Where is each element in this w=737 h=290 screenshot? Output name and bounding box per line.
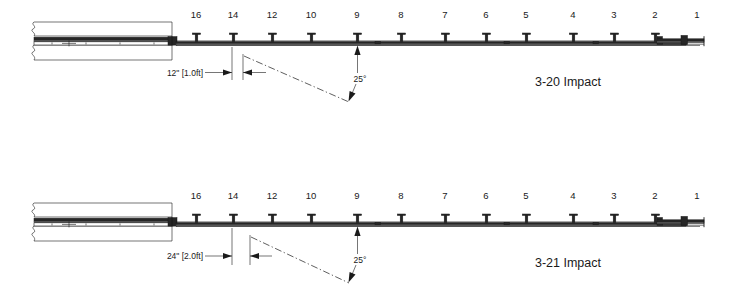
angle-arrow-up — [354, 227, 360, 237]
post-label-8: 8 — [398, 9, 403, 20]
post-label-16: 16 — [191, 190, 202, 201]
post-label-5: 5 — [523, 190, 528, 201]
post-number-labels-top: 16 14 12 10 9 8 7 6 5 4 3 2 1 — [191, 9, 700, 20]
concrete-barrier-bottom — [32, 203, 177, 241]
post-number-labels-bottom: 16 14 12 10 9 8 7 6 5 4 3 2 1 — [191, 190, 700, 201]
angle-arrow-down — [349, 272, 356, 283]
diagram-3-21: 16 14 12 10 9 8 7 6 5 4 3 2 1 — [0, 145, 737, 290]
drawing-sheet: 16 14 12 10 9 8 7 6 5 4 3 2 1 — [0, 0, 737, 290]
dim-arrow-left — [223, 70, 232, 76]
post-label-3: 3 — [611, 190, 616, 201]
post-label-6: 6 — [483, 9, 488, 20]
angle-arrow-up — [354, 46, 360, 56]
impact-angle-text: 25° — [354, 255, 367, 265]
offset-dimension-text: 24" [2.0ft] — [167, 251, 203, 261]
post-label-2: 2 — [652, 9, 657, 20]
post-label-9: 9 — [354, 9, 359, 20]
post-label-12: 12 — [267, 9, 278, 20]
concrete-barrier-top — [32, 22, 177, 60]
offset-dimension-top: 12" [1.0ft] — [167, 47, 266, 80]
diagram-title-3-21: 3-21 Impact — [535, 256, 602, 270]
post-label-2: 2 — [652, 190, 657, 201]
post-label-7: 7 — [442, 9, 447, 20]
post-label-1: 1 — [694, 190, 699, 201]
diagram-title-3-20: 3-20 Impact — [535, 75, 602, 89]
post-label-5: 5 — [523, 9, 528, 20]
guardrail-beam-top — [176, 41, 700, 46]
post-label-10: 10 — [306, 9, 317, 20]
dim-arrow-left — [223, 253, 232, 259]
post-label-16: 16 — [191, 9, 202, 20]
impact-angle-annotation-bottom: 25° — [349, 227, 367, 283]
dim-arrow-right — [250, 253, 259, 259]
post-label-8: 8 — [398, 190, 403, 201]
offset-dimension-bottom: 24" [2.0ft] — [167, 228, 272, 265]
post-label-14: 14 — [228, 9, 239, 20]
dim-arrow-right — [243, 70, 252, 76]
post-label-6: 6 — [483, 190, 488, 201]
post-label-4: 4 — [570, 190, 575, 201]
post-label-1: 1 — [694, 9, 699, 20]
post-label-10: 10 — [306, 190, 317, 201]
post-label-4: 4 — [570, 9, 575, 20]
post-label-9: 9 — [354, 190, 359, 201]
diagram-3-20: 16 14 12 10 9 8 7 6 5 4 3 2 1 — [0, 0, 737, 145]
post-label-3: 3 — [611, 9, 616, 20]
angle-arrow-down — [349, 91, 356, 102]
post-label-14: 14 — [228, 190, 239, 201]
post-label-12: 12 — [267, 190, 278, 201]
impact-trajectory-line-bottom — [251, 237, 349, 283]
impact-angle-text: 25° — [354, 74, 367, 84]
impact-trajectory-line-top — [244, 56, 349, 102]
impact-angle-annotation-top: 25° — [349, 46, 367, 102]
post-label-7: 7 — [442, 190, 447, 201]
guardrail-beam-bottom — [176, 222, 700, 227]
offset-dimension-text: 12" [1.0ft] — [167, 68, 203, 78]
